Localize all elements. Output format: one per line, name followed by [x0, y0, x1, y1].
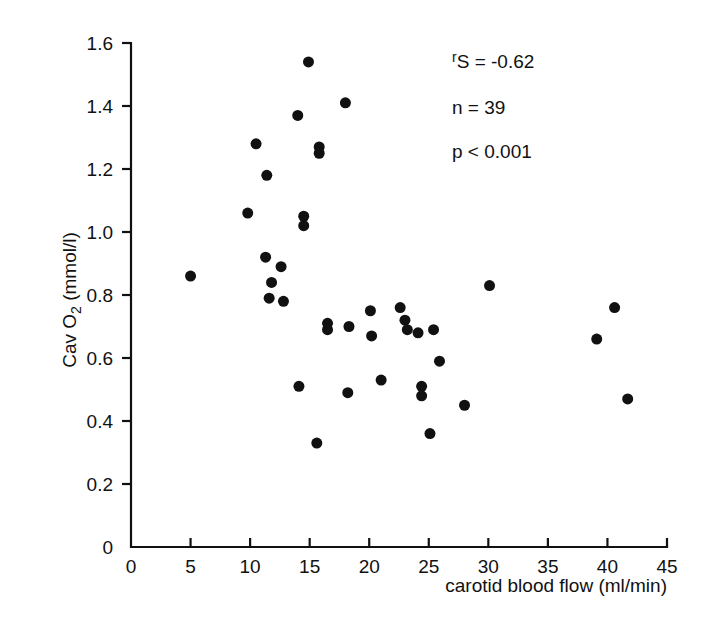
- data-point: [292, 110, 303, 121]
- data-point: [242, 208, 253, 219]
- y-axis-tick-labels: 00.20.40.60.81.01.21.41.6: [87, 33, 114, 558]
- data-point: [298, 220, 309, 231]
- data-point: [395, 302, 406, 313]
- y-axis-title-prefix: Cav O: [59, 314, 80, 368]
- data-point: [311, 438, 322, 449]
- data-point: [428, 324, 439, 335]
- data-point: [366, 330, 377, 341]
- x-tick-label: 0: [126, 556, 137, 577]
- x-axis-title: carotid blood flow (ml/min): [445, 575, 667, 596]
- y-tick-label: 1.4: [87, 96, 114, 117]
- y-tick-label: 1.0: [87, 222, 113, 243]
- x-tick-label: 40: [597, 556, 618, 577]
- data-point: [303, 56, 314, 67]
- x-tick-label: 35: [537, 556, 558, 577]
- x-tick-label: 15: [299, 556, 320, 577]
- y-axis-title-subscript: 2: [68, 306, 84, 314]
- data-point: [298, 211, 309, 222]
- data-point: [260, 252, 271, 263]
- svg-text:Cav O2 (mmol/l): Cav O2 (mmol/l): [59, 232, 84, 368]
- data-points: [185, 56, 633, 448]
- data-point: [264, 293, 275, 304]
- data-point: [434, 356, 445, 367]
- statistics-annotations: rS = -0.62 n = 39 p < 0.001: [452, 49, 534, 162]
- data-point: [484, 280, 495, 291]
- data-point: [278, 296, 289, 307]
- data-point: [343, 321, 354, 332]
- y-axis-title: Cav O2 (mmol/l): [59, 232, 84, 368]
- y-axis-title-suffix: (mmol/l): [59, 232, 80, 306]
- p-value-annotation: p < 0.001: [452, 141, 532, 162]
- data-point: [185, 271, 196, 282]
- data-point: [591, 334, 602, 345]
- y-tick-label: 0.2: [87, 474, 113, 495]
- x-axis-ticks: [191, 538, 667, 547]
- data-point: [622, 393, 633, 404]
- data-point: [251, 138, 262, 149]
- data-point: [416, 381, 427, 392]
- y-tick-label: 0.8: [87, 285, 113, 306]
- axis-lines: [131, 43, 667, 547]
- data-point: [266, 277, 277, 288]
- data-point: [365, 305, 376, 316]
- plot-canvas: 051015202530354045 00.20.40.60.81.01.21.…: [0, 0, 720, 626]
- data-point: [424, 428, 435, 439]
- x-tick-label: 30: [478, 556, 499, 577]
- data-point: [293, 381, 304, 392]
- spearman-annotation: rS = -0.62: [452, 49, 534, 72]
- data-point: [376, 375, 387, 386]
- data-point: [322, 324, 333, 335]
- x-tick-label: 45: [656, 556, 677, 577]
- data-point: [276, 261, 287, 272]
- data-point: [261, 170, 272, 181]
- data-point: [399, 315, 410, 326]
- data-point: [413, 327, 424, 338]
- data-point: [402, 324, 413, 335]
- y-tick-label: 1.2: [87, 159, 113, 180]
- data-point: [342, 387, 353, 398]
- y-axis-ticks: [122, 43, 131, 484]
- axes: [122, 43, 667, 547]
- y-tick-label: 0.6: [87, 348, 113, 369]
- spearman-value: = -0.62: [469, 51, 534, 72]
- data-point: [459, 400, 470, 411]
- sample-size-annotation: n = 39: [452, 97, 505, 118]
- x-tick-label: 20: [359, 556, 380, 577]
- x-axis-tick-labels: 051015202530354045: [126, 556, 678, 577]
- scatter-plot-figure: 051015202530354045 00.20.40.60.81.01.21.…: [0, 0, 720, 626]
- x-tick-label: 5: [185, 556, 196, 577]
- x-tick-label: 25: [418, 556, 439, 577]
- data-point: [340, 97, 351, 108]
- data-point: [314, 148, 325, 159]
- y-tick-label: 0.4: [87, 411, 114, 432]
- data-point: [609, 302, 620, 313]
- y-tick-label: 1.6: [87, 33, 113, 54]
- x-tick-label: 10: [240, 556, 261, 577]
- data-point: [416, 390, 427, 401]
- spearman-subscript: S: [457, 51, 470, 72]
- y-tick-label: 0: [102, 537, 113, 558]
